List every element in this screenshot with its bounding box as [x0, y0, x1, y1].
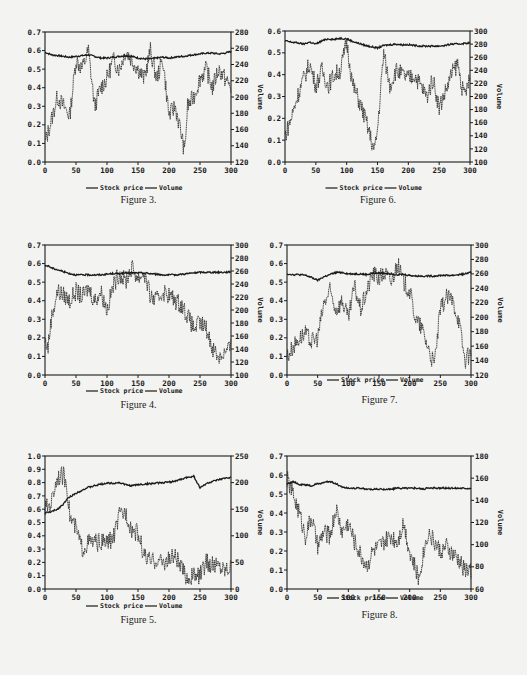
left-tick-label: 0.9	[27, 465, 41, 474]
left-tick-label: 0.2	[27, 558, 41, 567]
figure-4: 0.00.10.20.30.40.50.60.71001201401601802…	[0, 225, 265, 445]
left-tick-label: 0.2	[27, 120, 41, 129]
figure-8: 0.00.10.20.30.40.50.60.76080100120140160…	[262, 445, 527, 675]
plot-frame	[287, 456, 471, 589]
right-tick-label: 140	[474, 131, 488, 140]
figure-caption: Figure 7.	[247, 394, 512, 405]
left-tick-label: 0.6	[267, 27, 281, 36]
x-tick-label: 0	[285, 379, 290, 388]
left-tick-label: 0.6	[27, 259, 41, 268]
left-tick-label: 1.0	[27, 452, 41, 461]
x-tick-label: 300	[463, 166, 477, 175]
right-tick-label: 260	[475, 269, 489, 278]
figure-caption: Figure 6.	[246, 194, 511, 205]
x-tick-label: 300	[224, 593, 238, 602]
left-tick-label: 0.1	[269, 352, 283, 361]
fig6-chart: 0.00.10.20.30.40.50.61001201401601802002…	[262, 0, 527, 225]
right-tick-label: 280	[475, 255, 489, 264]
left-tick-label: 0.6	[27, 505, 41, 514]
left-tick-label: 0.0	[267, 158, 281, 167]
left-tick-label: 0.1	[27, 139, 41, 148]
figure-5: 0.00.10.20.30.40.50.60.70.80.91.00501001…	[0, 445, 265, 675]
right-tick-label: 300	[474, 27, 488, 36]
fig5-chart: 0.00.10.20.30.40.50.60.70.80.91.00501001…	[0, 445, 265, 675]
left-tick-label: 0.3	[269, 315, 283, 324]
left-tick-label: 0.7	[27, 28, 41, 37]
x-tick-label: 50	[71, 593, 81, 602]
x-tick-label: 100	[100, 166, 114, 175]
volume-line	[45, 265, 231, 276]
left-tick-label: 0.2	[27, 333, 41, 342]
volume-line	[287, 481, 471, 490]
x-tick-label: 0	[285, 593, 290, 602]
right-tick-label: 160	[474, 118, 488, 127]
left-tick-label: 0.3	[27, 545, 41, 554]
left-tick-label: 0.7	[269, 452, 283, 461]
left-tick-label: 0.4	[27, 531, 41, 540]
right-tick-label: 260	[235, 267, 249, 276]
figure-6: 0.00.10.20.30.40.50.61001201401601802002…	[262, 0, 527, 225]
right-tick-label: 140	[235, 345, 249, 354]
left-tick-label: 0.7	[269, 241, 283, 250]
right-tick-label: 280	[235, 254, 249, 263]
x-tick-label: 50	[313, 593, 323, 602]
fig4-chart: 0.00.10.20.30.40.50.60.71001201401601802…	[0, 225, 265, 445]
legend-price-label: Stock price	[100, 184, 143, 192]
right-tick-label: 120	[475, 518, 489, 527]
right-tick-label: 180	[235, 319, 249, 328]
x-tick-label: 50	[313, 379, 323, 388]
left-tick-label: 0.2	[269, 547, 283, 556]
right-tick-label: 240	[475, 284, 489, 293]
left-tick-label: 0.7	[27, 492, 41, 501]
plot-frame	[45, 32, 231, 162]
right-tick-label: 220	[235, 76, 249, 85]
left-tick-label: 0.5	[27, 518, 41, 527]
legend-price-label: Stock price	[341, 594, 384, 602]
left-tick-label: 0.0	[27, 158, 41, 167]
right-tick-label: 50	[235, 558, 245, 567]
volume-line	[285, 38, 470, 49]
x-tick-label: 0	[283, 166, 288, 175]
left-tick-label: 0.3	[267, 92, 281, 101]
left-tick-label: 0.4	[267, 70, 281, 79]
right-tick-label: 140	[475, 496, 489, 505]
right-tick-label: 200	[475, 313, 489, 322]
x-tick-label: 100	[100, 593, 114, 602]
x-tick-label: 0	[43, 166, 48, 175]
right-tick-label: 80	[475, 562, 485, 571]
right-tick-label: 280	[235, 28, 249, 37]
left-tick-label: 0.3	[27, 102, 41, 111]
left-tick-label: 0.2	[267, 114, 281, 123]
right-tick-label: 280	[474, 40, 488, 49]
x-tick-label: 250	[193, 593, 207, 602]
fig3-chart: 0.00.10.20.30.40.50.60.71201401601802002…	[0, 0, 265, 225]
left-tick-label: 0.0	[27, 585, 41, 594]
stock-price-line	[285, 40, 470, 150]
right-tick-label: 240	[235, 280, 249, 289]
figure-caption: Figure 4.	[6, 399, 271, 410]
right-tick-label: 140	[475, 356, 489, 365]
figure-caption: Figure 8.	[247, 609, 512, 620]
x-tick-label: 250	[193, 379, 207, 388]
right-tick-label: 260	[235, 44, 249, 53]
x-tick-label: 50	[71, 166, 81, 175]
left-tick-label: 0.5	[267, 48, 281, 57]
legend-price-label: Stock price	[100, 602, 143, 610]
legend-price-label: Stock price	[340, 184, 383, 192]
chart-legend: Stock priceVolume	[327, 594, 424, 602]
x-tick-label: 200	[162, 166, 176, 175]
left-tick-label: 0.0	[269, 585, 283, 594]
chart-legend: Stock priceVolume	[327, 376, 424, 384]
volume-line	[45, 476, 231, 514]
left-tick-label: 0.0	[27, 371, 41, 380]
left-tick-label: 0.1	[27, 352, 41, 361]
right-tick-label: 100	[475, 540, 489, 549]
left-tick-label: 0.2	[269, 333, 283, 342]
left-tick-label: 0.8	[27, 478, 41, 487]
right-tick-label: 200	[235, 478, 249, 487]
right-tick-label: 160	[235, 332, 249, 341]
x-tick-label: 150	[131, 166, 145, 175]
right-tick-label: 160	[235, 125, 249, 134]
x-tick-label: 200	[402, 166, 416, 175]
plot-frame	[45, 456, 231, 589]
